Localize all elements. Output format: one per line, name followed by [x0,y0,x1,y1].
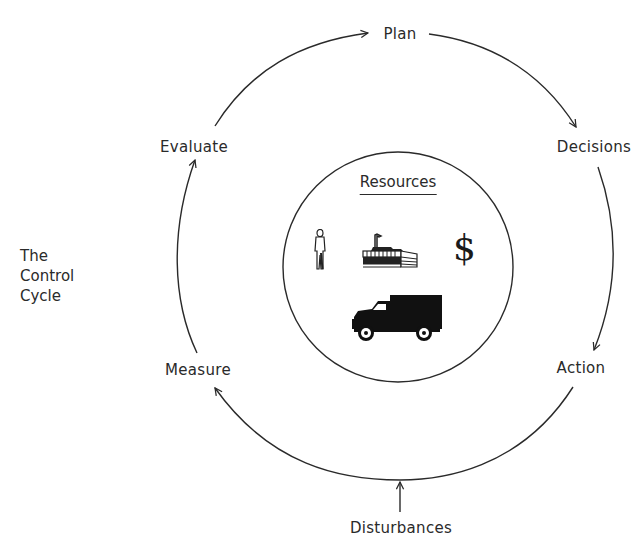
factory-icon [361,231,421,271]
title-line-1: The [20,246,74,266]
arrow-decisions-to-action [594,167,613,350]
cycle-diagram [0,0,638,555]
truck-icon [350,293,444,343]
node-measure: Measure [165,361,231,379]
title-line-3: Cycle [20,286,74,306]
node-action: Action [557,359,606,377]
arrow-action-to-measure [215,387,573,480]
node-decisions: Decisions [557,138,631,156]
dollar-icon: $ [453,226,476,270]
node-plan: Plan [383,25,416,43]
diagram-title: The Control Cycle [20,246,74,306]
node-evaluate: Evaluate [160,138,228,156]
arrow-measure-to-evaluate [177,160,197,353]
title-line-2: Control [20,266,74,286]
person-icon [311,229,329,271]
arrow-evaluate-to-plan [215,33,368,126]
resources-label: Resources [360,173,437,195]
disturbances-label: Disturbances [350,519,452,537]
arrow-plan-to-decisions [429,34,576,127]
